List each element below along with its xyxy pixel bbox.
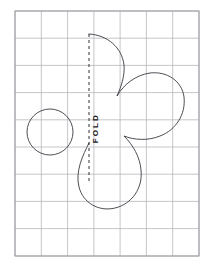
pattern-sheet: FOLD (0, 0, 214, 274)
pattern-canvas (0, 0, 214, 274)
grid-border (15, 11, 199, 256)
grid-lines (15, 11, 199, 256)
circle-motif (27, 109, 73, 155)
